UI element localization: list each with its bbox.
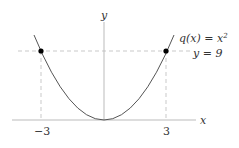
- x-axis-label: x: [200, 114, 207, 127]
- hline-label: y = 9: [192, 47, 222, 60]
- tick-pos3: 3: [163, 125, 170, 138]
- curve-label: q(x) = x2: [179, 32, 228, 45]
- point-neg3: [38, 48, 43, 53]
- y-axis-label: y: [100, 9, 108, 22]
- parabola-plot: y x q(x) = x2 y = 9 −3 3: [0, 0, 239, 148]
- tick-neg3: −3: [34, 125, 50, 138]
- point-pos3: [163, 48, 168, 53]
